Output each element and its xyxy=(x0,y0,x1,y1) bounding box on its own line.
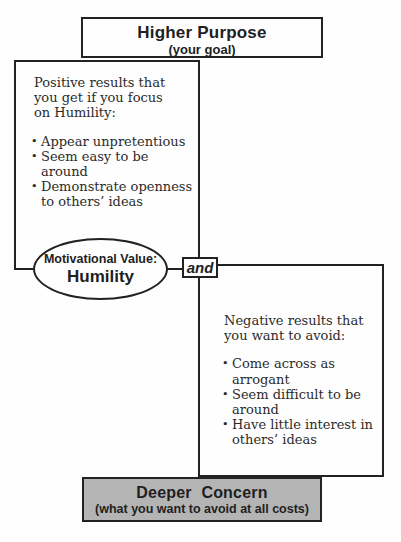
deeper-concern-title: Deeper Concern xyxy=(84,484,320,502)
positive-intro-text: Positive results that you get if you foc… xyxy=(34,75,192,121)
motivational-value-label: Motivational Value: xyxy=(44,253,157,266)
higher-purpose-box: Higher Purpose (your goal) xyxy=(81,17,323,58)
deeper-concern-subtitle: (what you want to avoid at all costs) xyxy=(84,502,320,517)
list-item: • Have little interest in others’ ideas xyxy=(222,417,380,447)
list-item: • Seem difficult to be around xyxy=(222,387,380,417)
bullet-icon: • xyxy=(31,149,41,164)
higher-purpose-title: Higher Purpose xyxy=(83,23,321,42)
list-item: • Seem easy to be around xyxy=(31,149,196,179)
bullet-icon: • xyxy=(31,179,41,194)
and-connector-label: and xyxy=(187,259,214,276)
negative-intro-text: Negative results that you want to avoid: xyxy=(224,313,378,343)
list-item-text: Have little interest in others’ ideas xyxy=(232,417,373,447)
diagram-canvas: Higher Purpose (your goal) Positive resu… xyxy=(0,0,401,542)
negative-results-box: Negative results that you want to avoid:… xyxy=(198,264,384,477)
list-item-text: Come across as arrogant xyxy=(232,356,380,386)
list-item: • Come across as arrogant xyxy=(222,356,380,386)
list-item: • Demonstrate openness to others’ ideas xyxy=(31,179,196,209)
motivational-value-name: Humility xyxy=(67,267,134,286)
list-item-text: Seem easy to be around xyxy=(41,149,196,179)
and-connector-box: and xyxy=(182,257,218,278)
bullet-icon: • xyxy=(31,134,41,149)
higher-purpose-subtitle: (your goal) xyxy=(83,42,321,57)
list-item-text: Seem difficult to be around xyxy=(232,387,361,417)
motivational-value-ellipse: Motivational Value: Humility xyxy=(33,238,168,300)
bullet-icon: • xyxy=(222,387,232,402)
positive-bullet-list: • Appear unpretentious • Seem easy to be… xyxy=(31,134,196,210)
list-item-text: Appear unpretentious xyxy=(41,134,185,149)
negative-bullet-list: • Come across as arrogant • Seem difficu… xyxy=(222,356,380,447)
list-item-text: Demonstrate openness to others’ ideas xyxy=(41,179,192,209)
bullet-icon: • xyxy=(222,356,232,371)
list-item: • Appear unpretentious xyxy=(31,134,196,149)
deeper-concern-box: Deeper Concern (what you want to avoid a… xyxy=(82,477,322,522)
bullet-icon: • xyxy=(222,417,232,432)
